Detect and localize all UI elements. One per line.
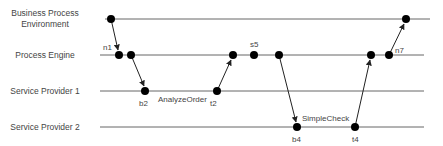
label-t4: t4 [352,135,359,144]
node-n7 [385,51,393,59]
node-pe-5 [275,51,283,59]
message-arrow-pe-to-b2 [131,55,144,86]
label-n1: n1 [103,43,112,52]
node-bpe-end [402,15,410,23]
label-b2: b2 [139,99,148,108]
message-arrow-t4-to-pe [355,60,370,127]
node-s5 [250,51,258,59]
label-n7: n7 [395,46,404,55]
node-pe-2 [127,51,135,59]
node-b2 [141,87,149,95]
activity-label-analyze-order: AnalyzeOrder [158,95,207,104]
label-t2: t2 [210,99,217,108]
label-s5: s5 [250,40,259,49]
sequence-diagram-canvas: n1 b2 t2 s5 b4 t4 n7 AnalyzeOrder Simple… [0,0,443,146]
message-arrow-bpe-to-n1 [111,19,118,50]
node-b4 [293,123,301,131]
node-t4 [351,123,359,131]
label-b4: b4 [292,135,301,144]
activity-label-simple-check: SimpleCheck [302,114,350,123]
message-arrow-t2-to-pe [217,60,231,91]
node-n1 [115,51,123,59]
node-pe-6 [367,51,375,59]
node-pe-3 [229,51,237,59]
message-arrow-pe-to-b4 [279,55,296,122]
node-bpe-start [107,15,115,23]
node-t2 [213,87,221,95]
